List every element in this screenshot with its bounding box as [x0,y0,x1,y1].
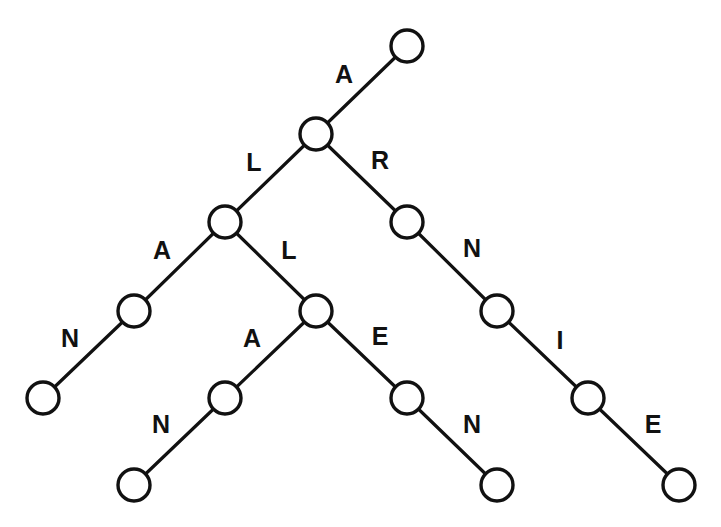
edge-label: E [645,410,662,438]
node-ALA [118,295,150,327]
edge-label: N [152,410,170,438]
node-ARNIE [663,469,695,501]
edge-A-AL [225,134,316,222]
edge-ALLA-ALLAN [134,398,225,485]
edge-label: E [372,322,389,350]
edge-AR-ARN [407,222,497,311]
node-root [391,30,423,62]
edge-label: L [281,236,296,264]
edge-root-A [316,46,407,134]
edge-label: N [61,324,79,352]
edge-AL-ALA [134,222,225,311]
edges-layer [43,46,679,485]
edge-label: N [463,234,481,262]
node-AL [209,206,241,238]
edge-ARN-ARNI [497,311,588,398]
nodes-layer [27,30,695,501]
edge-A-AR [316,134,407,222]
edge-ALLE-ALLEN [407,398,497,485]
node-ALLAN [118,469,150,501]
node-ARNI [572,382,604,414]
node-ALLA [209,382,241,414]
edge-label: A [243,324,261,352]
edge-label: L [246,148,261,176]
edge-ALL-ALLA [225,311,316,398]
trie-diagram: ALRALNNAEINNE [0,0,721,527]
node-ARN [481,295,513,327]
node-ALL [300,295,332,327]
edge-label: N [463,410,481,438]
edge-ALL-ALLE [316,311,407,398]
node-ALLEN [481,469,513,501]
edge-ARNI-ARNIE [588,398,679,485]
trie-diagram-svg: ALRALNNAEINNE [0,0,721,527]
edge-label: R [371,146,389,174]
node-AR [391,206,423,238]
edge-ALA-ALAN [43,311,134,398]
node-A [300,118,332,150]
node-ALLE [391,382,423,414]
edge-label: I [557,326,564,354]
edge-label: A [153,236,171,264]
node-ALAN [27,382,59,414]
edge-AL-ALL [225,222,316,311]
edge-label: A [335,60,353,88]
